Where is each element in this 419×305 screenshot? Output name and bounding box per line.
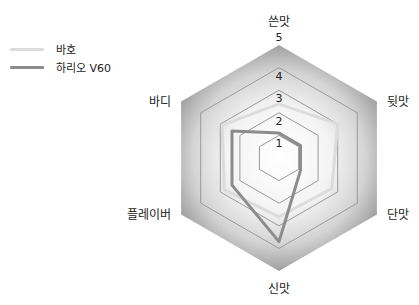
tick-label-4: 4 bbox=[276, 70, 283, 83]
legend-label: 하리오 V60 bbox=[56, 59, 111, 75]
axis-label-5: 바디 bbox=[149, 95, 171, 109]
axis-label-4: 플레이버 bbox=[127, 208, 171, 222]
tick-label-2: 2 bbox=[276, 115, 283, 128]
tick-label-3: 3 bbox=[276, 92, 283, 105]
axis-label-3: 신맛 bbox=[268, 282, 290, 296]
legend-swatch-hario-v60 bbox=[10, 66, 44, 69]
legend-label: 바호 bbox=[56, 41, 76, 57]
axis-label-2: 단맛 bbox=[387, 208, 409, 222]
tick-label-1: 1 bbox=[276, 137, 283, 150]
legend-item-hario-v60[interactable]: 하리오 V60 bbox=[10, 58, 111, 76]
axis-label-0: 쓴맛 bbox=[268, 15, 290, 29]
legend-item-baho[interactable]: 바호 bbox=[10, 40, 111, 58]
tick-label-5: 5 bbox=[276, 31, 283, 44]
legend-swatch-baho bbox=[10, 48, 44, 51]
legend: 바호 하리오 V60 bbox=[10, 40, 111, 76]
axis-label-1: 뒷맛 bbox=[387, 95, 409, 109]
